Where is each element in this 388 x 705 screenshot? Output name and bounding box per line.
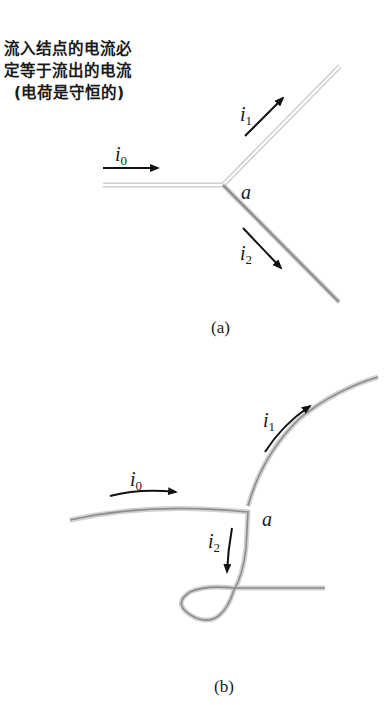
current-label-i1-a: i1 [240,104,252,131]
current-label-i0-b: i0 [130,469,142,496]
arrow-i0-b [110,491,176,496]
node-label-a: a [241,182,251,202]
node-label-b: a [262,509,272,529]
panel-a-wires [103,66,340,302]
panel-b-wires [70,377,378,620]
panel-a-caption: (a) [211,318,230,338]
arrow-i2-b [227,528,232,572]
current-label-i2-a: i2 [240,243,252,270]
current-label-i1-b: i1 [263,410,275,437]
junction-diagrams [0,0,388,705]
current-label-i0-a: i0 [115,144,127,171]
current-label-i2-b: i2 [208,531,220,558]
panel-b-caption: (b) [214,677,234,697]
